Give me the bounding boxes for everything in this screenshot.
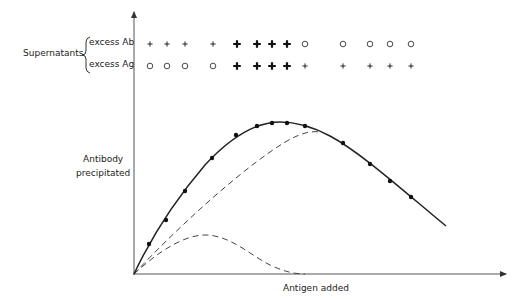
excess-ab-label: excess Ab	[89, 37, 134, 47]
negative-circle-icon	[387, 41, 393, 47]
negative-circle-icon	[302, 41, 308, 47]
strong-plus-icon	[283, 40, 291, 48]
small-dashed-curve	[134, 235, 305, 274]
large-dashed-curve	[134, 132, 320, 274]
y-axis-label-line1: Antibody	[76, 152, 130, 166]
data-point	[285, 121, 289, 125]
data-point	[164, 218, 168, 222]
strong-plus-icon	[268, 62, 276, 70]
data-point	[147, 242, 151, 246]
excess-ab-row	[147, 40, 413, 48]
plus-icon	[210, 41, 215, 46]
data-point	[210, 156, 214, 160]
negative-circle-icon	[147, 63, 153, 69]
data-point	[270, 121, 274, 125]
negative-circle-icon	[164, 63, 170, 69]
strong-plus-icon	[268, 40, 276, 48]
data-points	[147, 121, 413, 246]
strong-plus-icon	[253, 40, 261, 48]
data-point	[388, 179, 392, 183]
strong-plus-icon	[233, 40, 241, 48]
data-point	[183, 189, 187, 193]
plus-icon	[367, 63, 372, 68]
strong-plus-icon	[283, 62, 291, 70]
supernatants-label: Supernatants	[23, 48, 83, 58]
y-axis-label-line2: precipitated	[76, 166, 130, 180]
data-point	[409, 195, 413, 199]
data-point	[341, 141, 345, 145]
data-point	[303, 124, 307, 128]
plus-icon	[182, 41, 187, 46]
data-point	[368, 162, 372, 166]
strong-plus-icon	[253, 62, 261, 70]
plus-icon	[147, 41, 152, 46]
negative-circle-icon	[408, 41, 414, 47]
plus-icon	[408, 63, 413, 68]
precipitin-curve-diagram	[0, 0, 525, 299]
excess-ag-row	[147, 62, 413, 70]
plus-icon	[340, 63, 345, 68]
strong-plus-icon	[233, 62, 241, 70]
plus-icon	[387, 63, 392, 68]
y-axis-label: Antibody precipitated	[76, 152, 130, 180]
data-point	[234, 133, 238, 137]
precipitate-curve	[134, 122, 446, 274]
plus-icon	[302, 63, 307, 68]
negative-circle-icon	[182, 63, 188, 69]
negative-circle-icon	[210, 63, 216, 69]
excess-ag-label: excess Ag	[89, 59, 134, 69]
data-point	[255, 124, 259, 128]
negative-circle-icon	[367, 41, 373, 47]
plus-icon	[164, 41, 169, 46]
negative-circle-icon	[340, 41, 346, 47]
x-axis-label: Antigen added	[283, 283, 349, 293]
